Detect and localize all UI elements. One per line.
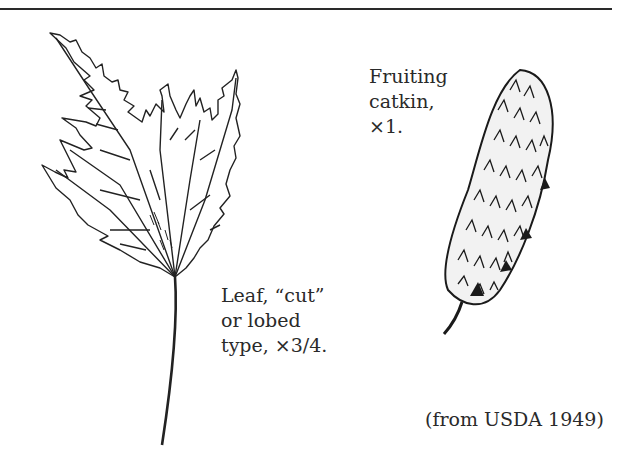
catkin-illustration (444, 70, 553, 334)
leaf-caption: Leaf, “cut” or lobed type, ×3/4. (221, 283, 327, 358)
leaf-illustration (42, 33, 240, 445)
source-credit: (from USDA 1949) (425, 407, 604, 432)
catkin-caption: Fruiting catkin, ×1. (369, 64, 448, 139)
figure-artwork (0, 0, 633, 465)
